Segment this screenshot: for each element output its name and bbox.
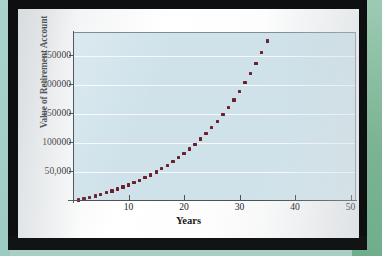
gridline-y-100000	[73, 143, 355, 144]
data-point	[182, 152, 185, 155]
data-point	[127, 183, 130, 186]
data-point	[105, 191, 108, 194]
gridline-y-50000	[73, 172, 355, 173]
y-tick-label-50000: 50,000	[1, 165, 71, 176]
data-point	[266, 39, 269, 42]
data-point	[171, 160, 174, 163]
data-point	[132, 181, 135, 184]
data-point	[210, 126, 213, 129]
x-tick-label-30: 30	[225, 201, 255, 212]
data-point	[99, 193, 102, 196]
gridline-y-150000	[73, 114, 355, 115]
y-axis-title: Value of Retirement Account	[39, 2, 49, 142]
data-point	[149, 173, 152, 176]
retirement-growth-chart: 50,000100000150000200000250000 102030405…	[18, 9, 359, 238]
data-point	[260, 51, 263, 54]
y-tick-label-200000: 200000	[1, 78, 71, 89]
data-point	[249, 72, 252, 75]
figure-root: 50,000100000150000200000250000 102030405…	[0, 0, 382, 256]
y-tick-label-150000: 150000	[1, 107, 71, 118]
data-point	[138, 179, 141, 182]
data-point	[188, 147, 191, 150]
gridline-y-250000	[73, 56, 355, 57]
data-point	[94, 194, 97, 197]
x-axis-line	[68, 200, 357, 201]
plot-area	[73, 32, 356, 200]
data-point	[143, 176, 146, 179]
data-point	[238, 90, 241, 93]
x-tick-label-40: 40	[280, 201, 310, 212]
x-tick-label-20: 20	[169, 201, 199, 212]
data-point	[110, 189, 113, 192]
data-point	[254, 62, 257, 65]
data-point	[221, 113, 224, 116]
x-tick-label-10: 10	[114, 201, 144, 212]
data-point	[243, 81, 246, 84]
data-point	[216, 120, 219, 123]
data-point	[121, 185, 124, 188]
data-point	[193, 143, 196, 146]
data-point	[160, 167, 163, 170]
y-tick-label-250000: 250000	[1, 49, 71, 60]
data-point	[232, 98, 235, 101]
y-axis-line	[73, 31, 74, 203]
x-axis-title: Years	[18, 215, 359, 226]
data-point	[199, 137, 202, 140]
y-tick-label-100000: 100000	[1, 136, 71, 147]
data-point	[88, 196, 91, 199]
plot-sheen	[73, 33, 355, 200]
data-point	[204, 132, 207, 135]
data-point	[166, 164, 169, 167]
book-dark-frame-bottom	[8, 236, 367, 250]
data-point	[116, 187, 119, 190]
x-tick-label-50: 50	[336, 201, 366, 212]
gridline-y-200000	[73, 85, 355, 86]
data-point	[177, 156, 180, 159]
data-point	[227, 106, 230, 109]
data-point	[155, 170, 158, 173]
